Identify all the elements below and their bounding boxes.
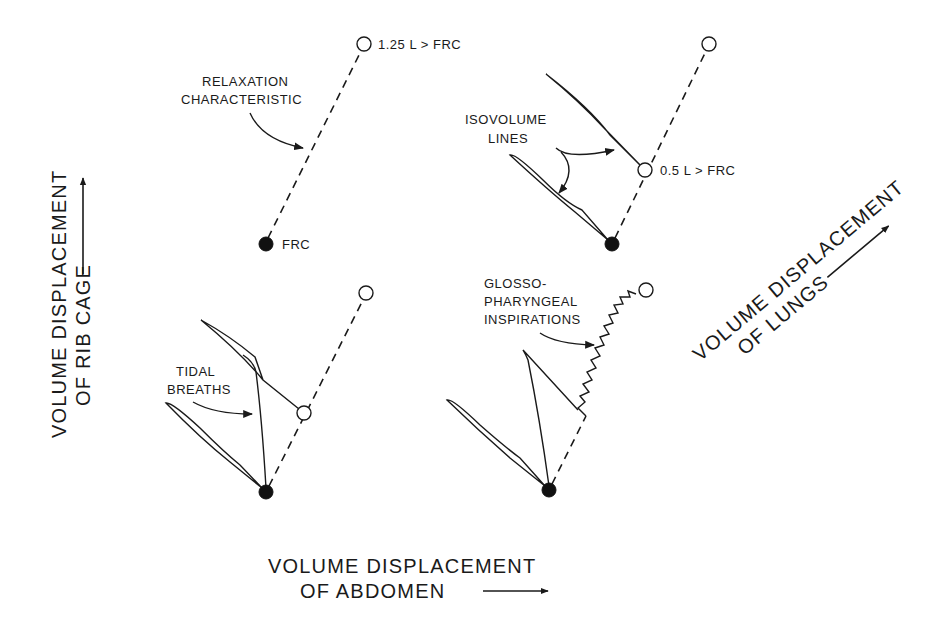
- panel-bottom-left: TIDAL BREATHS: [166, 286, 373, 499]
- glosso-label-line1: GLOSSO-: [484, 276, 547, 291]
- relaxation-line: [615, 51, 706, 238]
- tidal-label-line2: BREATHS: [167, 382, 231, 397]
- panel-bottom-right: GLOSSO- PHARYNGEAL INSPIRATIONS: [447, 276, 653, 497]
- frc-point: [259, 237, 273, 251]
- y-axis-label: VOLUME DISPLACEMENT OF RIB CAGE: [48, 170, 94, 438]
- frc-point: [259, 485, 273, 499]
- glosso-pointer-arrow: [540, 333, 594, 345]
- point-1-25l: [357, 37, 371, 51]
- relaxation-label-line2: CHARACTERISTIC: [181, 92, 302, 107]
- relaxation-line: [269, 300, 363, 486]
- isovolume-label-line1: ISOVOLUME: [465, 112, 547, 127]
- tidal-breath-line: [243, 355, 266, 488]
- frc-point: [542, 483, 556, 497]
- panel-top-left: FRC 1.25 L > FRC RELAXATION CHARACTERIST…: [181, 37, 461, 252]
- x-axis-label-line2: OF ABDOMEN: [300, 580, 445, 602]
- tidal-label-line1: TIDAL: [176, 364, 215, 379]
- point-top: [359, 286, 373, 300]
- konno-mead-diagram: FRC 1.25 L > FRC RELAXATION CHARACTERIST…: [0, 0, 934, 636]
- relaxation-label-line1: RELAXATION: [202, 74, 288, 89]
- panel-top-right: 0.5 L > FRC ISOVOLUME LINES: [465, 37, 735, 251]
- relaxation-pointer-arrow: [250, 113, 303, 148]
- point-mid: [297, 406, 311, 420]
- point-top: [639, 283, 653, 297]
- point-top: [702, 37, 716, 51]
- y-axis-label-line2: OF RIB CAGE: [72, 264, 94, 406]
- breath-line: [523, 350, 578, 486]
- point-1-25l-label: 1.25 L > FRC: [378, 37, 461, 52]
- frc-label: FRC: [282, 237, 310, 252]
- isovolume-label-line2: LINES: [488, 131, 528, 146]
- point-0-5l: [638, 163, 652, 177]
- isovolume-loop-lower: [166, 403, 262, 488]
- glosso-label-line3: INSPIRATIONS: [484, 312, 581, 327]
- glosso-staircase: [578, 291, 636, 416]
- isovolume-loop-lower: [447, 400, 545, 486]
- isovolume-pointer-lower: [559, 152, 569, 193]
- diagonal-axis-label: VOLUME DISPLACEMENT OF LUNGS: [688, 176, 923, 384]
- frc-point: [605, 237, 619, 251]
- tidal-pointer-arrow: [193, 402, 252, 414]
- diag-axis-label-line1: VOLUME DISPLACEMENT: [688, 176, 908, 365]
- x-axis-label: VOLUME DISPLACEMENT OF ABDOMEN: [268, 555, 548, 602]
- relaxation-line: [552, 416, 586, 484]
- isovolume-loop-lower: [510, 155, 608, 240]
- isovolume-loop-upper: [546, 74, 641, 166]
- isovolume-pointer-upper: [556, 148, 614, 155]
- point-0-5l-label: 0.5 L > FRC: [660, 163, 735, 178]
- glosso-label-line2: PHARYNGEAL: [484, 294, 578, 309]
- y-axis-label-line1: VOLUME DISPLACEMENT: [48, 170, 70, 438]
- x-axis-label-line1: VOLUME DISPLACEMENT: [268, 555, 536, 577]
